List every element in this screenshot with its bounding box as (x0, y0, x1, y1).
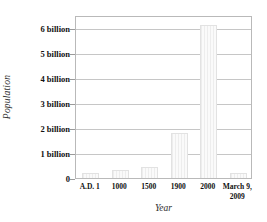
y-axis-tick-label: 2 billion (20, 124, 70, 134)
bar (141, 167, 158, 178)
x-axis-tick-label-line: 1500 (134, 182, 164, 192)
bar (230, 173, 247, 178)
x-axis-tick-label: 1500 (134, 182, 164, 192)
y-axis-tick-mark (70, 154, 75, 155)
y-axis-tick-label: 1 billion (20, 149, 70, 159)
y-axis-tick-label: 5 billion (20, 49, 70, 59)
x-axis-tick-label: 1900 (164, 182, 194, 192)
x-axis-tick-label-line: 2000 (193, 182, 223, 192)
y-axis-tick-label: 6 billion (20, 24, 70, 34)
y-axis-tick-labels: 01 billion2 billion3 billion4 billion5 b… (20, 19, 70, 179)
y-axis-tick-label: 0 (20, 174, 70, 184)
y-axis-tick-mark (70, 29, 75, 30)
bar (200, 25, 217, 178)
x-axis-tick-label-line: March 9, (223, 182, 253, 192)
x-axis-tick-label-line: 1900 (164, 182, 194, 192)
y-axis-title: Population (2, 57, 16, 137)
bar (82, 173, 99, 178)
x-axis-title: Year (75, 203, 252, 213)
bars-layer (76, 17, 251, 178)
population-bar-chart: Population 01 billion2 billion3 billion4… (0, 0, 267, 222)
y-axis-tick-label: 3 billion (20, 99, 70, 109)
bar (112, 170, 129, 178)
plot-area (75, 16, 252, 179)
bar (171, 133, 188, 178)
x-axis-tick-label: A.D. 1 (75, 182, 105, 192)
x-axis-tick-label: 2000 (193, 182, 223, 192)
y-axis-tick-mark (70, 54, 75, 55)
x-axis-tick-label: March 9,2009 (223, 182, 253, 201)
y-axis-tick-mark (70, 179, 75, 180)
x-axis-tick-label: 1000 (105, 182, 135, 192)
x-axis-tick-label-line: 1000 (105, 182, 135, 192)
y-axis-tick-mark (70, 104, 75, 105)
y-axis-tick-label: 4 billion (20, 74, 70, 84)
x-axis-tick-label-line: A.D. 1 (75, 182, 105, 192)
x-axis-tick-label-line: 2009 (223, 192, 253, 202)
y-axis-tick-mark (70, 129, 75, 130)
y-axis-tick-mark (70, 79, 75, 80)
